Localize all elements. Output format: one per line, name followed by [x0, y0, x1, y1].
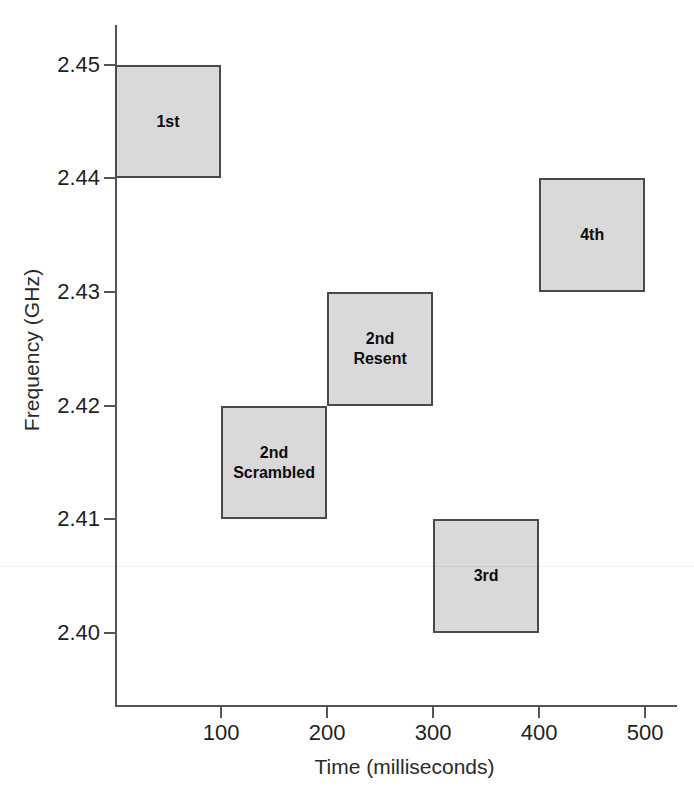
y-tick-mark [104, 632, 115, 634]
y-tick-label: 2.43 [57, 279, 100, 305]
data-box: 1st [115, 65, 221, 179]
x-tick-label: 100 [203, 720, 240, 746]
y-tick-mark [104, 518, 115, 520]
x-tick-mark [326, 707, 328, 718]
data-box-label: 2nd Scrambled [233, 443, 315, 483]
data-box: 2nd Resent [327, 292, 433, 406]
y-axis-title-text: Frequency (GHz) [20, 269, 44, 432]
plot-area: 2.402.412.422.432.442.45 100200300400500… [115, 25, 677, 707]
x-axis-title: Time (milliseconds) [115, 755, 694, 779]
y-tick-label: 2.41 [57, 506, 100, 532]
frequency-vs-time-chart: Frequency (GHz) 2.402.412.422.432.442.45… [0, 0, 694, 798]
x-tick-mark [644, 707, 646, 718]
data-box: 2nd Scrambled [221, 406, 327, 520]
data-box-label: 4th [580, 225, 604, 245]
x-tick-label: 300 [415, 720, 452, 746]
x-tick-mark [220, 707, 222, 718]
scan-artifact-line [0, 566, 694, 567]
x-tick-mark [538, 707, 540, 718]
x-axis-line [115, 705, 677, 707]
data-box: 4th [539, 178, 645, 292]
x-tick-label: 200 [309, 720, 346, 746]
data-box-label: 2nd Resent [353, 329, 406, 369]
y-tick-label: 2.44 [57, 165, 100, 191]
x-tick-label: 400 [521, 720, 558, 746]
y-tick-label: 2.42 [57, 393, 100, 419]
y-axis-title: Frequency (GHz) [10, 0, 54, 700]
y-tick-label: 2.40 [57, 620, 100, 646]
y-tick-label: 2.45 [57, 52, 100, 78]
data-box-label: 3rd [474, 566, 499, 586]
y-tick-mark [104, 405, 115, 407]
data-box: 3rd [433, 519, 539, 633]
x-tick-label: 500 [627, 720, 664, 746]
x-tick-mark [432, 707, 434, 718]
y-tick-mark [104, 291, 115, 293]
y-tick-mark [104, 64, 115, 66]
data-box-label: 1st [156, 112, 179, 132]
y-tick-mark [104, 177, 115, 179]
